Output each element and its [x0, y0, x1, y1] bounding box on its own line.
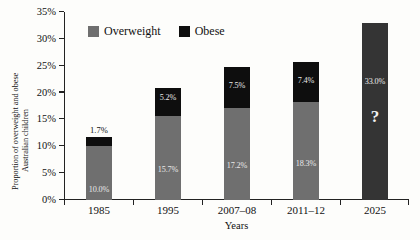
- bar-1985-label-overweight: 10.0%: [86, 185, 112, 194]
- x-tick-2: [202, 200, 203, 205]
- bar-2007-08-segment-obese: 7.5%: [224, 67, 250, 107]
- bar-2007-08-segment-overweight: 17.2%: [224, 108, 250, 200]
- x-tick-5: [408, 200, 409, 205]
- x-tick-1: [133, 200, 134, 205]
- y-axis-title-line-1: Proportion of overweight and obese: [11, 73, 20, 190]
- x-tick-3: [271, 200, 272, 205]
- bar-2011-12: 7.4% 18.3%: [293, 62, 319, 200]
- bar-2025-label-total: 33.0%: [362, 77, 388, 86]
- bar-2025-segment-projected: 33.0% ?: [362, 23, 388, 200]
- y-tick-label-25: 25%: [37, 60, 56, 71]
- plot-area: 0% 5% 10% 15% 20% 25% 30% 35% 1.7% 10.0%…: [64, 12, 409, 200]
- x-label-1995: 1995: [157, 204, 179, 216]
- x-label-2025: 2025: [364, 204, 386, 216]
- x-tick-4: [340, 200, 341, 205]
- bar-1995-label-overweight: 15.7%: [155, 165, 181, 174]
- bar-1995-segment-overweight: 15.7%: [155, 116, 181, 200]
- y-tick-label-20: 20%: [37, 87, 56, 98]
- bar-2007-08-label-obese: 7.5%: [224, 81, 250, 90]
- y-axis-title: Proportion of overweight and obese Austr…: [0, 0, 30, 200]
- bar-1985-segment-obese: 1.7%: [86, 137, 112, 146]
- y-tick-label-30: 30%: [37, 34, 56, 45]
- y-tick-label-5: 5%: [42, 168, 56, 179]
- bar-2007-08: 7.5% 17.2%: [224, 67, 250, 200]
- x-label-2007-08: 2007–08: [218, 204, 257, 216]
- y-tick-label-15: 15%: [37, 114, 56, 125]
- y-tick-label-10: 10%: [37, 141, 56, 152]
- bar-2025-projected: 33.0% ?: [362, 23, 388, 200]
- bar-2011-12-label-overweight: 18.3%: [293, 159, 319, 168]
- bar-1985: 1.7% 10.0%: [86, 137, 112, 200]
- bar-2025-question-mark-annotation: ?: [362, 107, 388, 127]
- y-axis-title-line-2: Australian children: [21, 109, 30, 172]
- bar-1995-label-obese: 5.2%: [155, 93, 181, 102]
- bar-1985-label-obese: 1.7%: [78, 125, 120, 135]
- bar-2011-12-segment-obese: 7.4%: [293, 62, 319, 102]
- x-label-1985: 1985: [88, 204, 110, 216]
- x-axis-title: Years: [64, 220, 409, 231]
- y-axis-line: [64, 12, 65, 200]
- bar-chart: Proportion of overweight and obese Austr…: [0, 0, 420, 240]
- bar-1995-segment-obese: 5.2%: [155, 88, 181, 116]
- y-tick-label-35: 35%: [37, 7, 56, 18]
- y-tick-label-0: 0%: [42, 195, 56, 206]
- bar-1985-segment-overweight: 10.0%: [86, 146, 112, 200]
- bar-2007-08-label-overweight: 17.2%: [224, 161, 250, 170]
- bar-2011-12-label-obese: 7.4%: [293, 76, 319, 85]
- x-tick-0: [64, 200, 65, 205]
- bar-1995: 5.2% 15.7%: [155, 88, 181, 200]
- bar-2011-12-segment-overweight: 18.3%: [293, 102, 319, 200]
- x-label-2011-12: 2011–12: [287, 204, 325, 216]
